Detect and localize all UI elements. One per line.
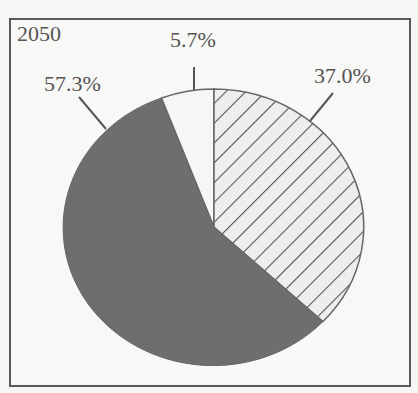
slice-label-dark: 57.3% (44, 73, 101, 95)
pie-chart (0, 0, 418, 393)
year-label: 2050 (17, 23, 61, 45)
slice-label-white: 5.7% (170, 29, 216, 51)
leader-line-dark (79, 97, 106, 129)
slice-label-hatched: 37.0% (314, 65, 371, 87)
leader-line-hatched (310, 93, 333, 121)
